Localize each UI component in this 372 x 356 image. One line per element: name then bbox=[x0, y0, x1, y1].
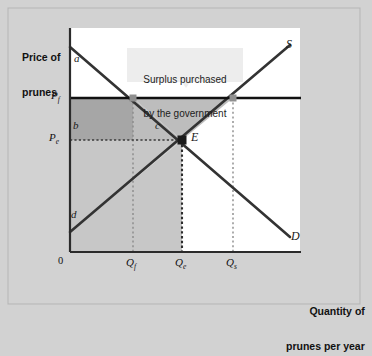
x-tick-qs: Qs bbox=[226, 256, 237, 272]
x-tick-qe-base: Q bbox=[175, 256, 183, 268]
y-tick-price-equilibrium: Pe bbox=[49, 131, 59, 147]
y-tick-price-equilibrium-sub: e bbox=[56, 137, 59, 146]
x-tick-qs-base: Q bbox=[226, 256, 234, 268]
area-label-d: d bbox=[71, 208, 77, 220]
region-ab-shading bbox=[70, 98, 133, 140]
area-label-a: a bbox=[74, 52, 80, 64]
y-tick-price-floor-sub: f bbox=[58, 95, 60, 104]
origin-label: 0 bbox=[58, 255, 63, 267]
surplus-callout-text: Surplus purchased by the government bbox=[129, 52, 241, 142]
surplus-callout-line1: Surplus purchased bbox=[129, 74, 241, 85]
y-tick-price-floor: Pf bbox=[51, 89, 60, 105]
x-tick-qf-base: Q bbox=[126, 256, 134, 268]
area-label-b: b bbox=[73, 119, 79, 131]
x-tick-qe-sub: e bbox=[183, 262, 186, 271]
y-tick-price-floor-base: P bbox=[51, 89, 58, 101]
y-tick-price-equilibrium-base: P bbox=[49, 131, 56, 143]
y-axis-title-line1: Price of bbox=[22, 52, 61, 64]
surplus-callout-line2: by the government bbox=[129, 108, 241, 119]
supply-curve-label: S bbox=[286, 38, 292, 51]
x-axis-title-line1: Quantity of bbox=[286, 306, 365, 318]
x-axis-title-line2: prunes per year bbox=[286, 341, 365, 353]
demand-curve-label: D bbox=[291, 230, 300, 243]
x-tick-qe: Qe bbox=[175, 256, 186, 272]
x-tick-qs-sub: s bbox=[234, 262, 237, 271]
x-axis-title: Quantity of prunes per year bbox=[286, 282, 365, 356]
x-tick-qf-sub: f bbox=[134, 262, 136, 271]
y-axis-title: Price of prunes bbox=[22, 28, 61, 122]
x-tick-qf: Qf bbox=[126, 256, 136, 272]
